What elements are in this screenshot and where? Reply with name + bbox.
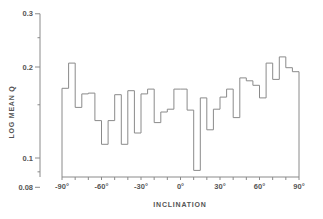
histogram-chart: 0.30.20.10.08 -90°-60°-30°0°30°60°90° LO… [0, 0, 323, 219]
y-axis: 0.30.20.10.08 [18, 9, 40, 192]
y-tick-label: 0.3 [23, 9, 33, 18]
x-tick-label: -90° [55, 182, 69, 191]
x-axis-label: INCLINATION [153, 201, 206, 208]
histogram-step-line [62, 57, 299, 177]
x-tick-label: 0° [177, 182, 184, 191]
x-tick-label: 30° [214, 182, 225, 191]
x-axis: -90°-60°-30°0°30°60°90° [55, 177, 305, 191]
x-tick-label: 60° [254, 182, 265, 191]
y-tick-label: 0.2 [23, 63, 33, 72]
x-tick-label: -30° [134, 182, 148, 191]
y-tick-label: 0.1 [23, 154, 33, 163]
y-tick-label: 0.08 [18, 183, 33, 192]
y-axis-label: LOG MEAN Q [8, 85, 16, 138]
x-tick-label: -60° [95, 182, 109, 191]
x-tick-label: 90° [293, 182, 304, 191]
